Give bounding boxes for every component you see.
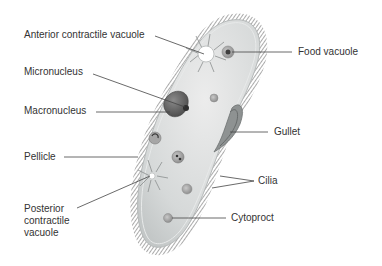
- food-vacuole-3: [149, 132, 161, 144]
- label-food-vacuole: Food vacuole: [298, 46, 358, 58]
- leader-cilia-1: [220, 176, 254, 181]
- food-vacuole-5: [182, 184, 192, 194]
- food-vacuole-2: [210, 94, 218, 102]
- micronucleus: [183, 105, 189, 111]
- label-macronucleus: Macronucleus: [24, 105, 86, 117]
- label-cytoproct: Cytoproct: [231, 212, 274, 224]
- leader-cilia-2: [212, 181, 254, 188]
- label-micronucleus: Micronucleus: [24, 66, 83, 78]
- label-pellicle: Pellicle: [24, 151, 56, 163]
- cytoproct-vacuole: [164, 214, 173, 223]
- food-vacuole-4: [172, 151, 184, 163]
- label-gullet: Gullet: [274, 126, 300, 138]
- paramecium-diagram: Anterior contractile vacuole Micronucleu…: [0, 0, 382, 266]
- label-cilia: Cilia: [258, 175, 277, 187]
- label-anterior-contractile-vacuole: Anterior contractile vacuole: [24, 29, 145, 41]
- label-posterior-contractile-vacuole: Posterior contractile vacuole: [24, 203, 84, 239]
